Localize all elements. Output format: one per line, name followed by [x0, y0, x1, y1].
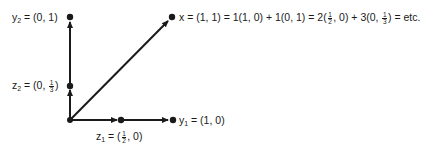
label-y2: y2 = (0, 1) [12, 11, 58, 27]
point-y1 [170, 117, 176, 123]
origin-point [67, 117, 73, 123]
label-z1: z1 = (12, 0) [96, 130, 142, 146]
label-tail: ) [55, 79, 59, 91]
point-x [169, 14, 175, 20]
label-x-part2: , 0) + 3(0, [333, 11, 381, 23]
vector-x [70, 21, 168, 120]
fraction-third: 13 [382, 12, 387, 25]
label-y1: y1 = (1, 0) [179, 114, 225, 130]
label-x-part1: x = (1, 1) = 1(1, 0) + 1(0, 1) = 2( [179, 11, 327, 23]
label-z2: z2 = (0, 13) [12, 79, 58, 95]
label-x: x = (1, 1) = 1(1, 0) + 1(0, 1) = 2(12, 0… [179, 11, 420, 25]
point-y2 [67, 14, 73, 20]
label-eq: = ( [105, 130, 120, 142]
fraction: 12 [122, 131, 127, 144]
label-tail: , 0) [127, 130, 142, 142]
fraction: 13 [49, 80, 54, 93]
label-eq: = (0, [21, 79, 48, 91]
label-x-part3: ) = etc. [388, 11, 420, 23]
point-z2 [67, 83, 73, 89]
label-eq: = (1, 0) [188, 114, 224, 126]
fraction-half: 12 [328, 12, 333, 25]
label-eq: = (0, 1) [21, 11, 57, 23]
point-z1 [118, 117, 124, 123]
